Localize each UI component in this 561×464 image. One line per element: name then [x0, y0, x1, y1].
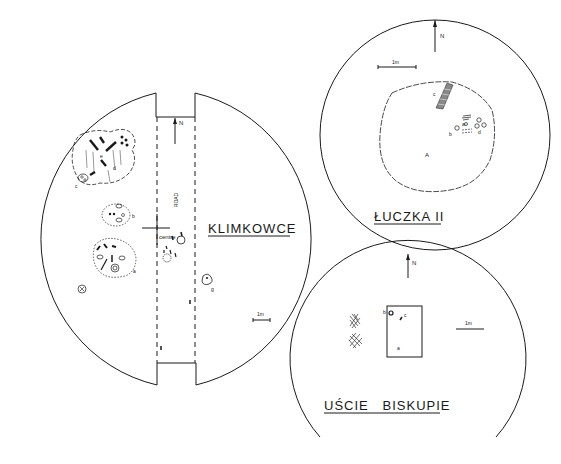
feature-label-a: a [397, 345, 400, 351]
feature-label-a: a [462, 121, 465, 127]
feature-label-a: a [133, 268, 136, 274]
feature-label-b: b [132, 213, 135, 219]
hatched-feature-2 [349, 333, 362, 348]
north-label: N [179, 120, 183, 126]
north-arrow-icon [433, 20, 437, 52]
feature-cluster-abd [455, 115, 486, 133]
feature-label-c: c [404, 312, 407, 318]
feature-label-e: e [100, 153, 103, 159]
north-arrow-icon [173, 118, 177, 144]
centre-cross-icon [142, 214, 170, 245]
scale-bar-icon [378, 65, 416, 69]
north-label: N [412, 260, 416, 266]
feature-c-post [400, 317, 402, 320]
luczka-plan: N 1m A c [320, 20, 550, 250]
feature-a-pit [93, 238, 136, 277]
site-title-uscie: UŚCIE BISKUPIE [324, 398, 451, 413]
scale-label: 1m [465, 320, 472, 326]
scale-bar-icon [253, 318, 270, 322]
feature-label-c: c [75, 183, 78, 189]
feature-label-A: A [425, 152, 429, 158]
feature-g [202, 274, 212, 284]
north-arrow-icon [406, 254, 410, 278]
north-label: N [440, 33, 444, 39]
klimkowce-plan: N ROAD centre KLIMKOWCE 1m [41, 93, 311, 385]
feature-label-c: c [433, 91, 436, 97]
feature-label-d: d [113, 165, 116, 171]
centre-label: centre [159, 234, 176, 240]
site-plans-diagram: N ROAD centre KLIMKOWCE 1m [0, 0, 561, 464]
hatched-feature-1 [350, 314, 360, 328]
feature-A-pit [380, 82, 495, 192]
feature-b-pit [102, 204, 130, 226]
feature-b-post [389, 311, 393, 315]
feature-label-g: g [211, 286, 214, 292]
feature-label-b: b [449, 131, 452, 137]
feature-label-d: d [478, 129, 481, 135]
feature-small-west [78, 285, 86, 293]
uscie-plan: N b c a 1m UŚCIE BISKUPIE [290, 240, 526, 437]
scale-label: 1m [257, 311, 264, 317]
feature-d-pit [72, 129, 135, 184]
feature-label-b: b [383, 309, 386, 315]
site-title-klimkowce: KLIMKOWCE [208, 221, 296, 236]
klimkowce-boundary [41, 93, 311, 385]
feature-c-hatched [436, 83, 453, 109]
scale-label: 1m [392, 59, 399, 65]
road-label: ROAD [173, 192, 179, 207]
site-title-luczka: ŁUCZKA II [374, 209, 444, 224]
